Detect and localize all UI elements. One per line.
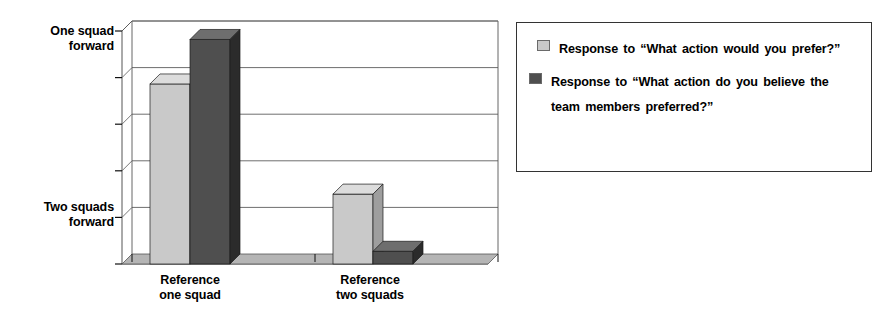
bar-chart: One squad forward Two squads forward Ref… bbox=[0, 0, 892, 319]
legend-item-1[interactable]: Response to “What action do you believe … bbox=[529, 70, 861, 120]
bars-group bbox=[150, 29, 423, 264]
legend-swatch-dark-icon bbox=[529, 73, 542, 84]
legend-label-1: Response to “What action do you believe … bbox=[551, 70, 861, 120]
legend: Response to “What action would you prefe… bbox=[516, 22, 872, 172]
legend-label-0: Response to “What action would you prefe… bbox=[559, 37, 840, 62]
legend-swatch-light-icon bbox=[537, 40, 550, 51]
legend-item-0[interactable]: Response to “What action would you prefe… bbox=[529, 37, 861, 62]
